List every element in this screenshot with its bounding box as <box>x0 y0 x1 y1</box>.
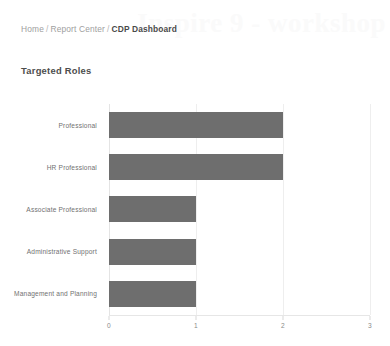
chart-x-tick-mark <box>283 316 284 320</box>
chart-plot-area <box>109 104 370 315</box>
chart-bar-band <box>109 146 370 188</box>
chart-bar[interactable] <box>109 154 283 180</box>
chart-bar[interactable] <box>109 196 196 222</box>
chart-x-axis-line <box>109 315 370 316</box>
page-root: Inspire 9 - workshop Home/Report Center/… <box>0 0 390 346</box>
chart-x-tick-label: 3 <box>368 322 372 329</box>
chart-value-axis: 0123 <box>0 322 390 336</box>
chart-category-label: Administrative Support <box>0 231 103 273</box>
chart-category-label: Management and Planning <box>0 273 103 315</box>
chart-category-axis: ProfessionalHR ProfessionalAssociate Pro… <box>0 104 103 315</box>
chart-x-tick-mark <box>370 316 371 320</box>
chart-category-label: HR Professional <box>0 146 103 188</box>
chart-x-tick-label: 2 <box>281 322 285 329</box>
chart-x-tick-mark <box>196 316 197 320</box>
chart-x-tick-mark <box>109 316 110 320</box>
targeted-roles-bar-chart: ProfessionalHR ProfessionalAssociate Pro… <box>0 0 390 346</box>
chart-bar-band <box>109 188 370 230</box>
chart-bar[interactable] <box>109 239 196 265</box>
chart-x-tick-label: 1 <box>194 322 198 329</box>
chart-bar[interactable] <box>109 112 283 138</box>
chart-x-tick-label: 0 <box>107 322 111 329</box>
chart-category-label: Professional <box>0 104 103 146</box>
chart-bar[interactable] <box>109 281 196 307</box>
chart-category-label: Associate Professional <box>0 188 103 230</box>
chart-gridline <box>370 104 371 315</box>
chart-bar-band <box>109 231 370 273</box>
chart-bar-band <box>109 273 370 315</box>
chart-bar-band <box>109 104 370 146</box>
